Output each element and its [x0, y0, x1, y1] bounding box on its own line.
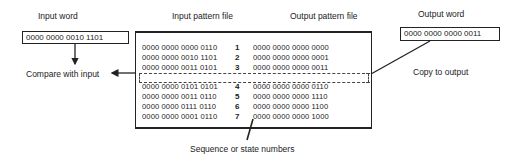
connector-arrows	[0, 0, 506, 161]
sequence-pointer-line	[247, 119, 253, 140]
copy-connector-line	[371, 41, 430, 74]
